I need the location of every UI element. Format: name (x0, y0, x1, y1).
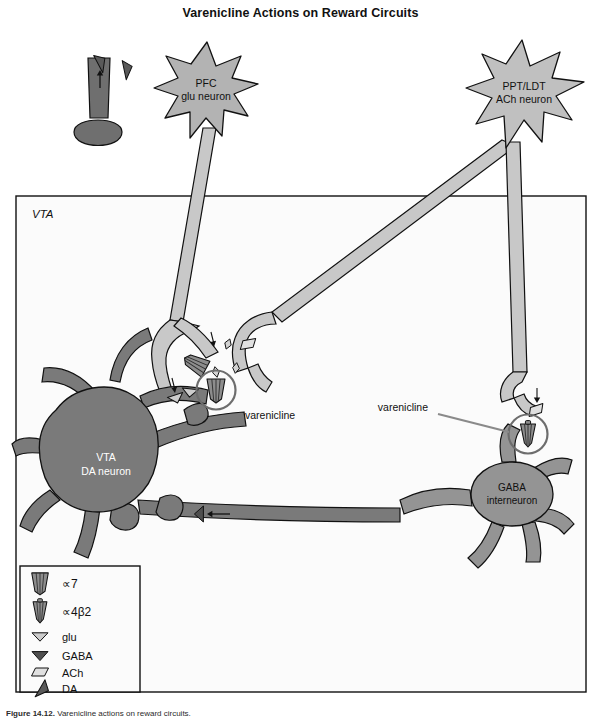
gaba-soma-shape (471, 462, 553, 526)
varenicline-label-right: varenicline (378, 401, 428, 413)
figure-caption: Figure 14.12. Varenicline actions on rew… (6, 709, 596, 719)
gaba-neuron-label-line1: GABA (498, 482, 526, 493)
legend-label-da: DA (62, 683, 78, 695)
gaba-neuron-label-line2: interneuron (487, 495, 538, 506)
pfc-neuron-label-line2: glu neuron (181, 90, 231, 102)
da-varicosity-1 (156, 495, 183, 520)
figure-root: Varenicline Actions on Reward Circuits (0, 0, 601, 719)
pfc-neuron-label-line1: PFC (196, 77, 217, 89)
legend-label-glu: glu (62, 631, 77, 643)
da-neuron-label-line1: VTA (96, 451, 116, 463)
da-neuron-label-line2: DA neuron (81, 465, 131, 477)
vta-region-label: VTA (32, 208, 54, 220)
legend-label-ach: ACh (62, 667, 83, 679)
ppt-neuron-label-line2: ACh neuron (496, 93, 552, 105)
ppt-neuron-label-line1: PPT/LDT (502, 80, 546, 92)
da-axon-terminal (74, 120, 122, 146)
figure-caption-body: Varenicline actions on reward circuits. (57, 709, 191, 718)
da-axon-shaft (88, 58, 110, 118)
legend-label-alpha7: ∝7 (62, 577, 78, 591)
figure-caption-number: Figure 14.12. (6, 709, 55, 718)
ppt-ldt-ach-neuron: PPT/LDT ACh neuron (466, 40, 584, 148)
legend-label-gaba: GABA (62, 650, 93, 662)
reward-circuit-diagram: VTA PFC glu neuron (0, 0, 601, 719)
pfc-glu-neuron: PFC glu neuron (154, 42, 258, 138)
legend-label-alpha4beta2: ∝4β2 (62, 605, 92, 619)
varenicline-label-left: varenicline (245, 409, 295, 421)
